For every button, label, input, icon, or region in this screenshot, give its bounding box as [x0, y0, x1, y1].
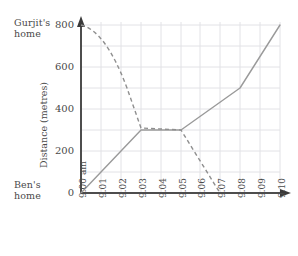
- x-tick-907: 9.07: [217, 178, 227, 198]
- x-tick-904: 9.04: [158, 178, 168, 198]
- x-tick-910: 9.10: [277, 178, 287, 198]
- x-tick-901: 9.01: [98, 178, 108, 198]
- y-tick-200: 200: [48, 145, 74, 156]
- gurjit-home-label: Gurjit's home: [14, 17, 50, 39]
- x-tick-908: 9.08: [237, 178, 247, 198]
- ben-home-label: Ben's home: [14, 179, 41, 201]
- x-tick-909: 9.09: [257, 178, 267, 198]
- gridlines: [81, 22, 280, 193]
- x-tick-903: 9.03: [138, 178, 148, 198]
- x-tick-902: 9.02: [118, 178, 128, 198]
- axes: [77, 16, 291, 197]
- y-tick-800: 800: [48, 19, 74, 30]
- x-tick-905: 9.05: [178, 178, 188, 198]
- chart-canvas: Gurjit's home Ben's home Distance (metre…: [0, 0, 298, 256]
- y-tick-400: 400: [48, 103, 74, 114]
- y-tick-0: 0: [48, 187, 74, 198]
- x-tick-906: 9.06: [197, 178, 207, 198]
- y-tick-600: 600: [48, 61, 74, 72]
- x-tick-900am: 9.00 am: [78, 161, 88, 198]
